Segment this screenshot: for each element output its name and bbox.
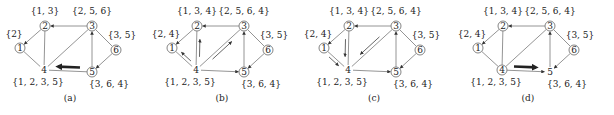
edge-2-4 [44, 31, 45, 65]
edge-3-4 [48, 29, 89, 66]
node-2: 2{1, 3, 4} [329, 6, 369, 31]
node-6-set-label: {3, 5} [260, 30, 289, 40]
node-6-set-label: {3, 5} [108, 30, 137, 40]
node-2: 2{1, 3, 4} [177, 6, 217, 31]
edge-1-4 [176, 51, 193, 66]
node-4-set-label: {1, 2, 3, 5} [164, 77, 216, 87]
node-number: 3 [547, 21, 553, 31]
panel-caption: (c) [368, 93, 380, 103]
node-2: 2{1, 3, 4} [483, 6, 523, 31]
message-arrow-5-to-4 [58, 67, 80, 68]
edge-1-4 [24, 51, 41, 66]
node-number: 5 [89, 67, 95, 77]
node-3: 3{2, 5, 6, 4} [370, 6, 422, 31]
node-number: 1 [475, 43, 481, 53]
node-4-set-label: {1, 2, 3, 5} [316, 77, 368, 87]
node-4: 4{1, 2, 3, 5} [12, 65, 64, 87]
node-3: 3{2, 5, 6, 4} [218, 6, 270, 31]
node-6-set-label: {3, 5} [412, 30, 441, 40]
node-number: 5 [547, 67, 553, 77]
node-2-set-label: {1, 3, 4} [329, 6, 369, 16]
node-number: 1 [321, 43, 327, 53]
node-1-set-label: {2} [5, 29, 22, 39]
node-number: 3 [393, 21, 399, 31]
node-2-set-label: {1, 3, 4} [177, 6, 217, 16]
node-number: 6 [113, 45, 119, 55]
panel-c: 1{2, 4}2{1, 3, 4}3{2, 5, 6, 4}4{1, 2, 3,… [304, 6, 441, 103]
node-number: 2 [500, 21, 506, 31]
node-number: 3 [241, 21, 247, 31]
node-6: 6{3, 5} [260, 30, 289, 55]
node-1: 1{2, 4} [304, 29, 333, 53]
node-3-set-label: {2, 5, 6, 4} [370, 6, 422, 16]
edge-6-to-5 [554, 53, 570, 68]
message-arrow-4-to-5 [514, 67, 536, 68]
node-4: 4{1, 2, 3, 5} [316, 65, 368, 87]
edge-3-4 [352, 29, 393, 66]
node-4-set-label: {1, 2, 3, 5} [470, 77, 522, 87]
edge-4-to-5 [201, 70, 239, 72]
node-5: 5{3, 6, 4} [239, 67, 281, 89]
node-1: 1{2, 4} [458, 29, 487, 53]
node-2-set-label: {1, 3, 4} [483, 6, 523, 16]
panel-b: 1{2, 4}2{1, 3, 4}3{2, 5, 6, 4}4{1, 2, 3,… [152, 6, 289, 103]
node-number: 4 [41, 65, 47, 75]
node-4-set-label: {1, 2, 3, 5} [12, 77, 64, 87]
node-3-set-label: {2, 5, 6} [72, 6, 112, 16]
message-arrow-1-to-4 [329, 57, 339, 66]
node-number: 5 [241, 67, 247, 77]
node-2: 2{1, 3} [31, 6, 60, 31]
node-number: 4 [345, 65, 351, 75]
node-5: 5{3, 6, 4} [391, 67, 433, 89]
edge-6-to-5 [400, 53, 416, 68]
node-number: 4 [193, 65, 199, 75]
edge-3-4 [200, 29, 241, 66]
node-number: 4 [499, 65, 505, 75]
node-6-set-label: {3, 5} [566, 30, 595, 40]
node-number: 6 [265, 45, 271, 55]
message-arrow-4-to-1 [181, 52, 191, 61]
edge-6-to-5 [248, 53, 264, 68]
node-5: 5{3, 6, 4} [87, 67, 129, 89]
node-6: 6{3, 5} [412, 30, 441, 55]
node-number: 6 [571, 45, 577, 55]
node-5-set-label: {3, 6, 4} [393, 79, 433, 89]
edge-3-4 [506, 29, 547, 66]
node-number: 3 [89, 21, 95, 31]
node-5-set-label: {3, 6, 4} [89, 79, 129, 89]
edge-2-to-1 [24, 29, 41, 44]
node-number: 2 [194, 21, 200, 31]
edge-1-4 [328, 51, 345, 66]
edge-4-to-5 [507, 70, 545, 72]
node-1-set-label: {2, 4} [458, 29, 487, 39]
node-number: 1 [17, 43, 23, 53]
node-5-set-label: {3, 6, 4} [547, 79, 587, 89]
edge-2-4 [196, 31, 197, 65]
panel-caption: (a) [64, 93, 76, 103]
edge-4-to-5 [353, 70, 391, 72]
node-5: 5{3, 6, 4} [545, 67, 587, 89]
graph-figure: 1{2}2{1, 3}3{2, 5, 6}4{1, 2, 3, 5}5{3, 6… [0, 0, 614, 115]
node-number: 1 [169, 43, 175, 53]
node-1-set-label: {2, 4} [304, 29, 333, 39]
node-1: 1{2} [5, 29, 25, 53]
edge-4-5 [49, 70, 87, 72]
message-arrow-3-to-4 [360, 37, 379, 55]
edge-1-4 [482, 51, 499, 66]
node-3: 3{2, 5, 6} [72, 6, 112, 31]
panel-caption: (d) [522, 93, 535, 103]
node-6: 6{3, 5} [566, 30, 595, 55]
message-arrow-4-to-3 [213, 42, 232, 60]
node-5-set-label: {3, 6, 4} [241, 79, 281, 89]
panel-caption: (b) [216, 93, 229, 103]
edge-6-to-5 [96, 53, 112, 68]
node-4: 4{1, 2, 3, 5} [470, 65, 522, 87]
edge-2-4 [348, 31, 349, 65]
node-3-set-label: {2, 5, 6, 4} [524, 6, 576, 16]
node-2-set-label: {1, 3} [31, 6, 60, 16]
node-1-set-label: {2, 4} [152, 29, 181, 39]
panel-d: 1{2, 4}2{1, 3, 4}3{2, 5, 6, 4}4{1, 2, 3,… [458, 6, 595, 103]
node-4: 4{1, 2, 3, 5} [164, 65, 216, 87]
node-6: 6{3, 5} [108, 30, 137, 55]
node-3: 3{2, 5, 6, 4} [524, 6, 576, 31]
